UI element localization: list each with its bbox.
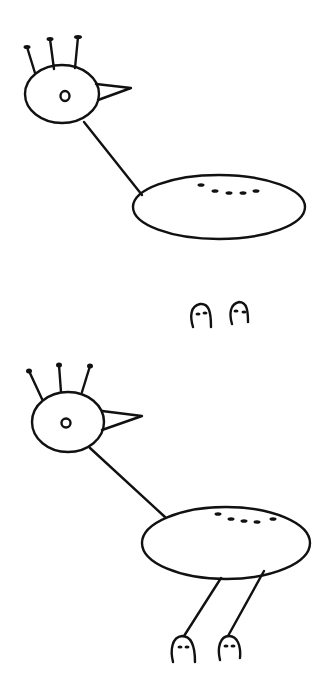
leg-left	[184, 578, 221, 636]
foot-right	[219, 636, 240, 660]
body	[133, 175, 305, 239]
head	[32, 392, 104, 452]
detached-feet	[191, 302, 248, 327]
foot-right	[230, 302, 248, 324]
body-markings	[215, 512, 277, 524]
illustration-canvas	[0, 0, 330, 689]
beak	[96, 84, 131, 100]
bird-with-legs	[26, 363, 310, 663]
bird-without-legs	[24, 35, 306, 239]
neck	[90, 448, 165, 517]
neck	[84, 122, 142, 195]
foot-left	[172, 636, 195, 662]
leg-right	[228, 571, 264, 636]
foot-left	[191, 304, 211, 327]
beak	[102, 411, 142, 430]
eye	[61, 91, 70, 101]
body	[142, 507, 310, 579]
eye	[62, 419, 71, 428]
body-markings	[198, 183, 260, 195]
